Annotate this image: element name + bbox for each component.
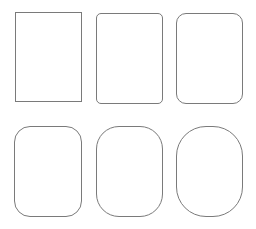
rectangle-radius-xxlarge xyxy=(176,126,243,217)
rectangle-radius-small xyxy=(96,13,163,104)
rectangle-radius-large xyxy=(14,126,82,217)
rectangle-radius-medium xyxy=(176,13,243,104)
rectangle-square-corners xyxy=(15,12,82,102)
shape-canvas xyxy=(0,0,256,229)
rectangle-radius-xlarge xyxy=(96,126,163,217)
